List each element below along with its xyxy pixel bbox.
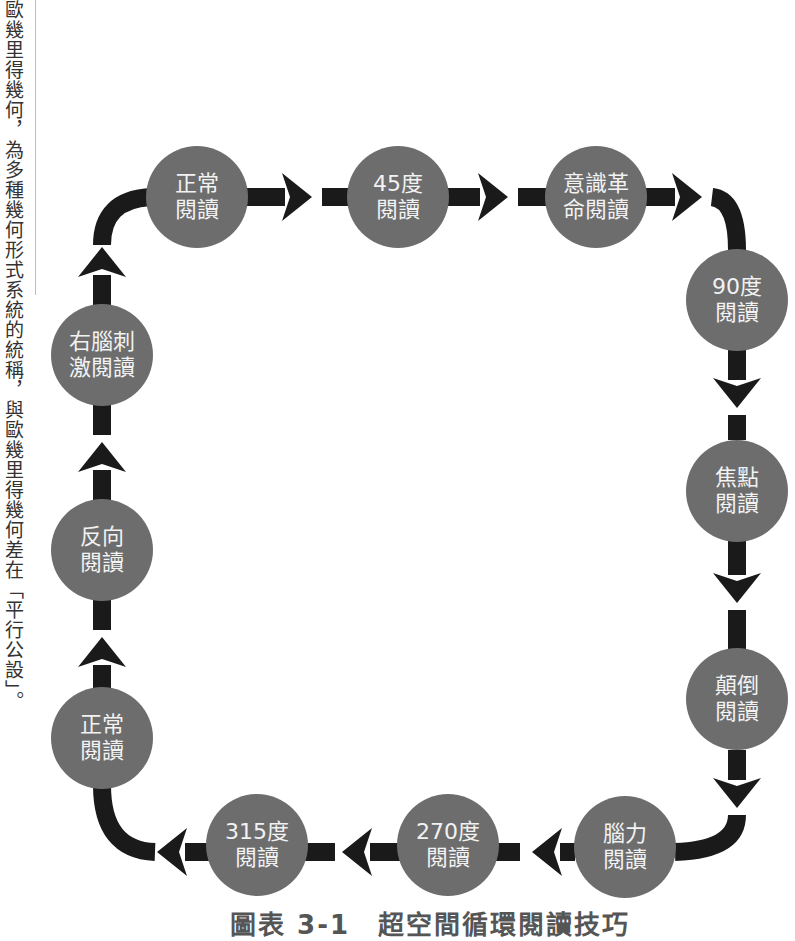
node-label-line2: 閱讀 [426,845,470,871]
node-label-line1: 腦力 [603,821,647,847]
node-label-line1: 焦點 [715,465,759,491]
node-270-degree-reading: 270度 閱讀 [397,794,499,896]
node-315-degree-reading: 315度 閱讀 [206,794,308,896]
node-label-line1: 意識革 [563,171,629,197]
node-label-line1: 正常 [80,712,124,738]
node-normal-reading-bottom: 正常 閱讀 [51,687,153,789]
node-label-line2: 激閱讀 [69,355,135,381]
node-45-degree-reading: 45度 閱讀 [347,146,449,248]
node-right-brain-stimulation-reading: 右腦刺 激閱讀 [51,304,153,406]
node-brainpower-reading: 腦力 閱讀 [574,796,676,898]
node-label-line2: 閱讀 [715,491,759,517]
node-label-line2: 閱讀 [235,845,279,871]
node-label-line2: 閱讀 [603,847,647,873]
node-consciousness-revolution-reading: 意識革 命閱讀 [545,146,647,248]
node-label-line2: 閱讀 [715,300,759,326]
node-label-line1: 顛倒 [715,673,759,699]
node-90-degree-reading: 90度 閱讀 [686,249,788,351]
node-label-line1: 315度 [225,819,289,845]
node-label-line2: 閱讀 [715,699,759,725]
node-label-line2: 閱讀 [376,197,420,223]
node-label-line2: 命閱讀 [563,197,629,223]
node-label-line2: 閱讀 [80,738,124,764]
node-label-line1: 正常 [175,171,219,197]
node-label-line1: 45度 [373,171,423,197]
node-upside-down-reading: 顛倒 閱讀 [686,648,788,750]
node-label-line1: 反向 [80,524,124,550]
node-reverse-reading: 反向 閱讀 [51,499,153,601]
node-label-line1: 90度 [712,274,762,300]
figure-caption: 圖表 3-1 超空間循環閱讀技巧 [230,904,630,941]
node-normal-reading-top: 正常 閱讀 [146,146,248,248]
node-label-line2: 閱讀 [80,550,124,576]
node-label-line1: 右腦刺 [69,329,135,355]
node-focus-reading: 焦點 閱讀 [686,440,788,542]
node-label-line2: 閱讀 [175,197,219,223]
node-label-line1: 270度 [416,819,480,845]
